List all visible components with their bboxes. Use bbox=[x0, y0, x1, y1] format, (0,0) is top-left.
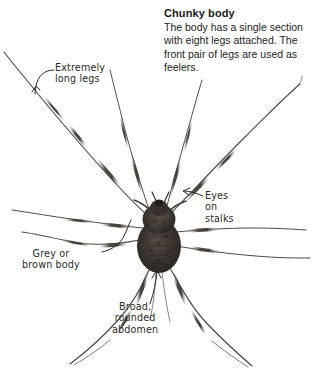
annotation-label-extremely-long-legs: Extremely long legs bbox=[55, 62, 105, 85]
illustration-page: Chunky body The body has a single sectio… bbox=[0, 0, 320, 384]
annotation-label-broad-rounded-abdomen: Broad, rounded abdomen bbox=[112, 301, 158, 335]
caption-block: Chunky body The body has a single sectio… bbox=[164, 6, 316, 75]
annotation-label-eyes-on-stalks: Eyes on stalks bbox=[205, 190, 234, 224]
caption-title: Chunky body bbox=[164, 6, 316, 20]
spider-body bbox=[137, 200, 181, 273]
annotation-label-grey-or-brown-body: Grey or brown body bbox=[22, 248, 80, 271]
caption-body: The body has a single section with eight… bbox=[164, 21, 316, 75]
